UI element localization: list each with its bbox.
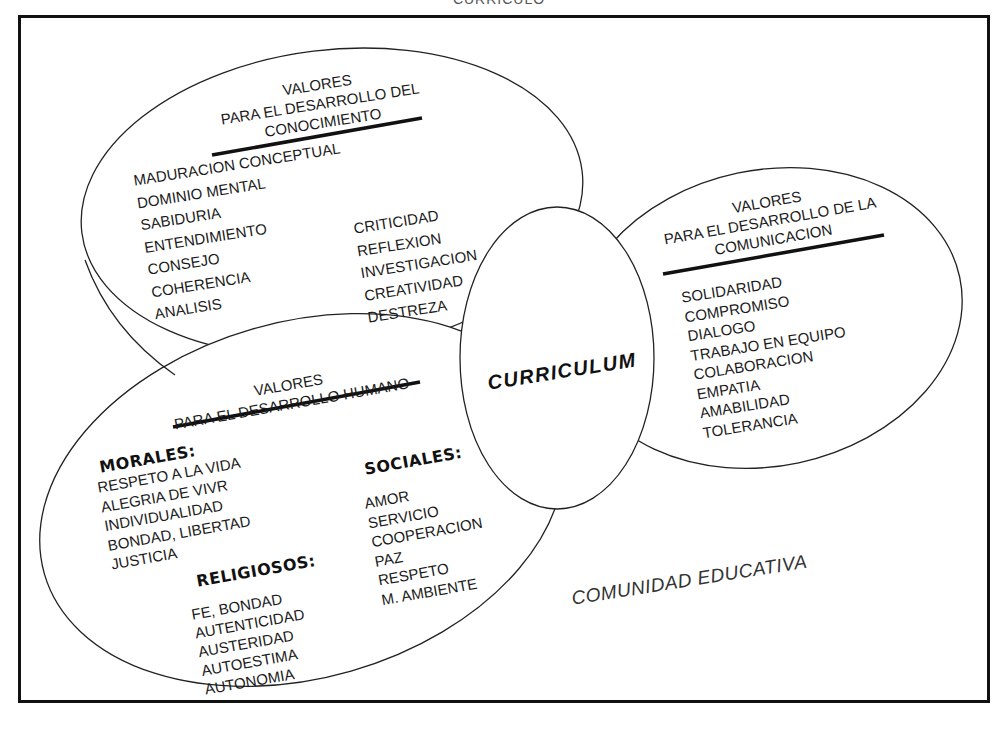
communication-list: SOLIDARIDAD COMPROMISO DIALOGO TRABAJO E… bbox=[680, 263, 859, 442]
religiosos-list: FE, BONDAD AUTENTICIDAD AUSTERIDAD AUTOE… bbox=[190, 586, 316, 699]
knowledge-list-right: CRITICIDAD REFLEXION INVESTIGACION CREAT… bbox=[352, 200, 486, 330]
knowledge-list-left: MADURACION CONCEPTUAL DOMINIO MENTAL SAB… bbox=[132, 137, 363, 325]
sociales-list: AMOR SERVICIO COOPERACION PAZ RESPETO M.… bbox=[363, 474, 494, 609]
